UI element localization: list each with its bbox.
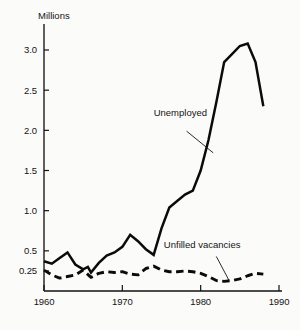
y-tick-label: 2.0 (24, 125, 37, 136)
unemployment-vacancies-line-chart: 0.250.51.01.52.02.53.0 1960197019801990 … (0, 0, 300, 330)
y-tick-label: 2.5 (24, 85, 37, 96)
series-line-unfilled-vacancies (44, 266, 263, 281)
chart-annotations: UnemployedUnfilled vacancies (154, 107, 241, 280)
x-tick-label: 1960 (34, 296, 55, 307)
annotation-label-unfilled-vacancies: Unfilled vacancies (164, 239, 241, 250)
x-tick-label: 1970 (112, 296, 133, 307)
y-tick-label: 1.5 (24, 165, 37, 176)
annotation-leader-unfilled-vacancies (216, 256, 229, 280)
y-tick-label: 0.5 (24, 245, 37, 256)
chart-container: 0.250.51.01.52.02.53.0 1960197019801990 … (0, 0, 300, 330)
y-axis-title: Millions (38, 10, 70, 21)
annotation-label-unemployed: Unemployed (154, 107, 207, 118)
y-tick-label: 3.0 (24, 44, 37, 55)
x-tick-label: 1990 (269, 296, 290, 307)
y-tick-label: 1.0 (24, 205, 37, 216)
y-tick-label: 0.25 (19, 265, 37, 276)
chart-axes (44, 24, 282, 291)
x-axis-ticks: 1960197019801990 (34, 285, 290, 307)
series-line-unemployed (44, 44, 263, 273)
x-tick-label: 1980 (190, 296, 211, 307)
